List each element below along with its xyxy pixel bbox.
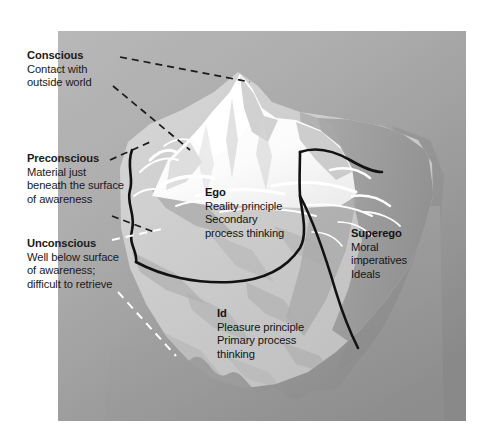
- label-unconscious-heading: Unconscious: [27, 237, 119, 251]
- label-preconscious-line-2: beneath the surface: [27, 179, 124, 193]
- label-preconscious: Preconscious Material just beneath the s…: [27, 152, 124, 206]
- label-unconscious: Unconscious Well below surface of awaren…: [27, 237, 119, 291]
- label-preconscious-line-1: Material just: [27, 166, 124, 180]
- label-superego-heading: Superego: [351, 227, 407, 241]
- label-ego: Ego Reality principle Secondary process …: [205, 186, 284, 240]
- label-superego-line-1: Moral: [351, 241, 407, 255]
- label-id-heading: Id: [217, 307, 304, 321]
- label-ego-line-2: Secondary: [205, 213, 284, 227]
- label-ego-line-3: process thinking: [205, 227, 284, 241]
- label-superego-line-3: Ideals: [351, 268, 407, 282]
- label-id-line-3: thinking: [217, 348, 304, 362]
- figure-canvas: Conscious Contact with outside world Pre…: [0, 0, 494, 447]
- label-unconscious-line-3: difficult to retrieve: [27, 278, 119, 292]
- label-preconscious-heading: Preconscious: [27, 152, 124, 166]
- label-preconscious-line-3: of awareness: [27, 193, 124, 207]
- label-conscious-line-1: Contact with: [27, 63, 92, 77]
- label-ego-line-1: Reality principle: [205, 200, 284, 214]
- label-id: Id Pleasure principle Primary process th…: [217, 307, 304, 361]
- label-superego: Superego Moral imperatives Ideals: [351, 227, 407, 281]
- label-conscious-heading: Conscious: [27, 49, 92, 63]
- label-superego-line-2: imperatives: [351, 254, 407, 268]
- label-conscious-line-2: outside world: [27, 76, 92, 90]
- label-id-line-2: Primary process: [217, 334, 304, 348]
- label-unconscious-line-1: Well below surface: [27, 251, 119, 265]
- label-ego-heading: Ego: [205, 186, 284, 200]
- label-id-line-1: Pleasure principle: [217, 321, 304, 335]
- label-conscious: Conscious Contact with outside world: [27, 49, 92, 90]
- label-unconscious-line-2: of awareness;: [27, 264, 119, 278]
